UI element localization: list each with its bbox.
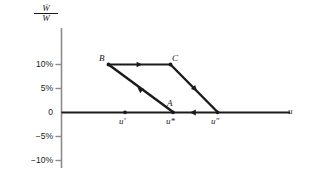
- y-tick-label-minus10: −10%: [15, 156, 53, 165]
- arrowhead-b-to-c: [137, 62, 142, 68]
- point-marker-a: [171, 110, 175, 114]
- y-axis-label-denominator: W: [34, 13, 58, 23]
- arrowhead-udprime-to-a: [190, 110, 196, 116]
- x-tick-label-u-star: u*: [166, 117, 175, 126]
- x-tick-label-u-prime: u′: [119, 117, 125, 126]
- annotation-point-c: C: [172, 54, 178, 63]
- chart-figure: Ẇ W 10% 5% 0 −5% −10% u B C A u′ u* u″: [0, 0, 309, 192]
- point-marker-c: [169, 63, 173, 67]
- y-tick-label-5: 5%: [19, 84, 53, 93]
- annotation-point-a: A: [167, 99, 173, 108]
- x-axis-label: u: [288, 107, 293, 116]
- point-marker-u-dprime: [216, 110, 220, 114]
- annotation-point-b: B: [99, 54, 105, 63]
- y-axis-label: Ẇ W: [34, 4, 58, 24]
- point-marker-u-prime: [123, 110, 127, 114]
- point-marker-b: [107, 63, 111, 67]
- y-tick-label-minus5: −5%: [15, 132, 53, 141]
- y-axis-label-numerator: Ẇ: [34, 4, 58, 13]
- y-tick-label-0: 0: [19, 108, 53, 117]
- y-tick-label-10: 10%: [19, 60, 53, 69]
- x-tick-label-u-dprime: u″: [211, 117, 219, 126]
